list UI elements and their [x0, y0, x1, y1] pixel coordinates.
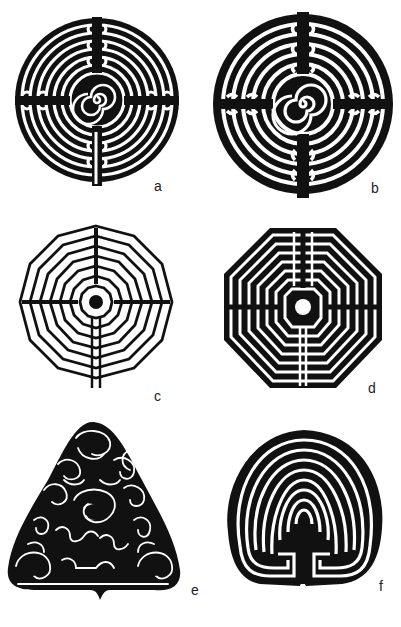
labyrinth-d-drawing: [222, 226, 384, 392]
figure-label-b: b: [371, 180, 379, 196]
labyrinth-b-drawing: [213, 8, 393, 200]
figure-label-d: d: [368, 380, 376, 396]
labyrinth-c: [16, 224, 176, 392]
figure-label-a: a: [154, 178, 162, 194]
labyrinth-a-drawing: [12, 12, 182, 190]
figure-label-e: e: [191, 582, 199, 598]
labyrinth-c-drawing: [16, 224, 176, 392]
labyrinth-d: [222, 226, 384, 392]
figure-label-c: c: [154, 388, 161, 404]
labyrinth-a: [12, 12, 182, 190]
figure-label-f: f: [379, 578, 383, 594]
labyrinth-f: [220, 428, 386, 592]
page-header: [0, 0, 401, 6]
labyrinth-b: [213, 8, 393, 200]
labyrinth-e-drawing: [4, 420, 184, 600]
labyrinth-f-drawing: [220, 428, 386, 592]
labyrinth-e: [4, 420, 184, 600]
